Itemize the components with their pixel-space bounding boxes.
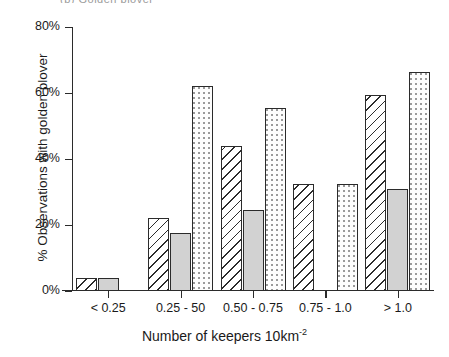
y-axis-tick: 60% <box>65 93 72 94</box>
x-axis-tick <box>181 291 182 298</box>
y-axis-line <box>72 27 73 291</box>
plot-area: 0%20%40%60%80%< 0.250.25 - 500.50 - 0.75… <box>72 27 434 291</box>
bar-grey-4 <box>387 189 408 291</box>
bar-hatched-0 <box>76 278 97 291</box>
bar-dotted-2 <box>265 108 286 291</box>
y-axis-tick: 0% <box>65 291 72 292</box>
x-axis-tick-label: 0.50 - 0.75 <box>223 301 283 315</box>
x-axis-tick <box>253 291 254 298</box>
bar-dotted-4 <box>409 72 430 291</box>
bar-hatched-2 <box>221 146 242 291</box>
y-axis-tick: 80% <box>65 27 72 28</box>
panel-caption: (b) Golden plover <box>60 0 320 3</box>
bar-dotted-3 <box>337 184 358 291</box>
x-axis-title-text: Number of keepers 10km <box>142 328 299 344</box>
x-axis-tick-label: < 0.25 <box>91 301 126 315</box>
bar-hatched-3 <box>293 184 314 291</box>
bar-grey-1 <box>170 233 191 291</box>
x-axis-tick-label: > 1.0 <box>384 301 412 315</box>
y-axis-tick: 40% <box>65 159 72 160</box>
y-axis-tick-label: 0% <box>42 283 60 297</box>
bar-dotted-1 <box>192 86 213 291</box>
bar-hatched-4 <box>365 95 386 291</box>
x-axis-tick <box>325 291 326 298</box>
bar-grey-0 <box>98 278 119 291</box>
x-axis-tick-label: 0.25 - 50 <box>156 301 205 315</box>
y-axis-tick-label: 60% <box>35 85 60 99</box>
y-axis-tick: 20% <box>65 225 72 226</box>
x-axis-title-superscript: -2 <box>299 327 307 337</box>
x-axis-tick-label: 0.75 - 1.0 <box>299 301 352 315</box>
chart-figure: (b) Golden plover % Observations with go… <box>0 0 449 357</box>
x-axis-title: Number of keepers 10km-2 <box>0 327 449 344</box>
bar-grey-2 <box>243 210 264 291</box>
y-axis-tick-label: 20% <box>35 217 60 231</box>
y-axis-tick-label: 80% <box>35 19 60 33</box>
x-axis-tick <box>108 291 109 298</box>
y-axis-tick-label: 40% <box>35 151 60 165</box>
x-axis-tick <box>398 291 399 298</box>
bar-hatched-1 <box>148 218 169 291</box>
